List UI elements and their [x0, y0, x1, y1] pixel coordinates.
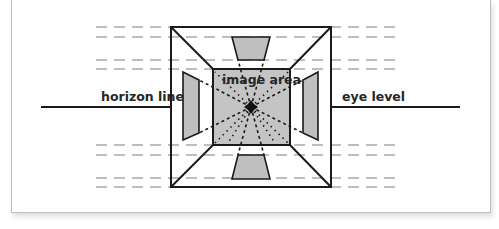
image-area-label: image area [222, 72, 301, 87]
right-wall-panel [303, 72, 318, 140]
horizon-line-label: horizon line [101, 89, 184, 104]
left-wall-panel [183, 72, 199, 140]
perspective-diagram: horizon line image area eye level [0, 0, 499, 229]
eye-level-label: eye level [342, 89, 405, 104]
floor-panel [232, 155, 270, 179]
ceiling-panel [232, 37, 270, 60]
